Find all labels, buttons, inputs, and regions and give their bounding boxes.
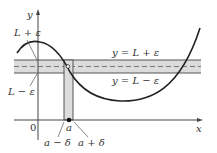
L-minus-epsilon-label: L − ε xyxy=(7,86,35,97)
a-plus-delta-label: a + δ xyxy=(78,137,105,148)
x-axis-arrow-icon xyxy=(197,118,203,122)
y-axis-arrow-icon xyxy=(36,9,40,15)
x-axis-label: x xyxy=(196,123,202,134)
limit-point-open-dot xyxy=(66,65,70,69)
a-label: a xyxy=(66,122,72,133)
leader-L-minus-eps xyxy=(30,74,37,86)
leader-L-plus-eps xyxy=(27,40,37,60)
origin-label: 0 xyxy=(30,122,36,133)
epsilon-delta-diagram: y x 0 L + ε L − ε y = L + ε y = L − ε a … xyxy=(0,0,217,153)
leader-a-minus-delta xyxy=(58,122,64,137)
a-minus-delta-label: a − δ xyxy=(44,137,71,148)
L-plus-epsilon-label: L + ε xyxy=(13,27,41,38)
y-axis-label: y xyxy=(26,9,33,20)
lower-line-label: y = L − ε xyxy=(111,75,159,86)
leader-a-plus-delta xyxy=(74,122,88,137)
upper-line-label: y = L + ε xyxy=(111,47,159,58)
